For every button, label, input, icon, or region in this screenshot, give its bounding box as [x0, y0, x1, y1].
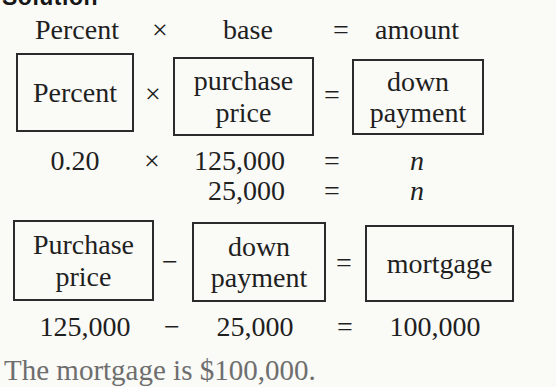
- purchase-price-box: purchase price: [173, 57, 314, 136]
- down-payment-box: down payment: [352, 59, 484, 135]
- equals-sign: =: [312, 146, 352, 176]
- unknown-variable: n: [357, 176, 477, 206]
- conclusion-text: The mortgage is $100,000.: [4, 354, 316, 386]
- multiplication-sign: ×: [133, 79, 173, 109]
- equals-sign: =: [324, 248, 364, 278]
- equals-sign: =: [312, 80, 352, 110]
- purchase-price-box: Purchase price: [13, 220, 154, 301]
- equals-sign: =: [325, 312, 365, 342]
- equals-sign: =: [312, 176, 352, 206]
- formula-percent-term: Percent: [17, 15, 137, 45]
- mortgage-value: 100,000: [375, 312, 495, 342]
- solution-heading: Solution: [2, 0, 98, 10]
- formula-base-term: base: [188, 15, 308, 45]
- percent-value: 0.20: [15, 146, 135, 176]
- multiplication-sign: ×: [140, 15, 180, 45]
- formula-amount-term: amount: [347, 15, 487, 45]
- down-payment-value: 25,000: [195, 312, 315, 342]
- down-payment-value: 25,000: [165, 176, 285, 206]
- unknown-variable: n: [357, 146, 477, 176]
- textbook-solution-page: Solution Percent × base = amount Percent…: [0, 0, 556, 387]
- purchase-price-value: 125,000: [25, 312, 145, 342]
- minus-sign: −: [150, 247, 190, 277]
- mortgage-box: mortgage: [365, 225, 514, 302]
- percent-box: Percent: [16, 53, 134, 132]
- minus-sign: −: [152, 312, 192, 342]
- down-payment-box: down payment: [192, 222, 326, 302]
- purchase-price-value: 125,000: [165, 146, 285, 176]
